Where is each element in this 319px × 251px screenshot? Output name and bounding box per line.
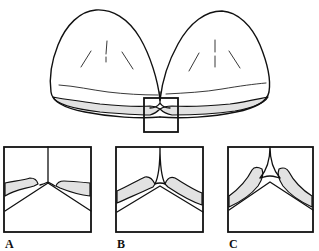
right-lobe-ridge-right [229,51,240,68]
panel-a-label: A [5,237,14,251]
panel-a-contact [40,147,55,186]
panel-b-contact [155,147,165,184]
panel-c-label: C [229,237,238,251]
panel-c-left-band [229,168,263,207]
diagram: A B C [0,0,319,251]
left-lobe-cervical-line [59,85,158,95]
contact-point [150,92,170,108]
left-lobe-ridge-center [106,41,107,54]
panel-c-right-band [278,168,312,207]
right-lobe-ridge-left [189,53,199,71]
right-lobe [160,11,270,118]
right-lobe-cervical-line [166,83,266,94]
panel-c-contact [260,147,280,178]
right-lobe-shaded-band [160,97,268,115]
panel-b-left-band [117,177,155,203]
left-lobe-ridge-left [81,51,91,67]
panel-c: C [228,147,313,251]
panel-a: A [4,147,91,251]
left-lobe-ridge-right [122,52,133,69]
panel-b: B [116,147,203,251]
panel-b-label: B [117,237,125,251]
panel-a-right-band [56,181,90,196]
